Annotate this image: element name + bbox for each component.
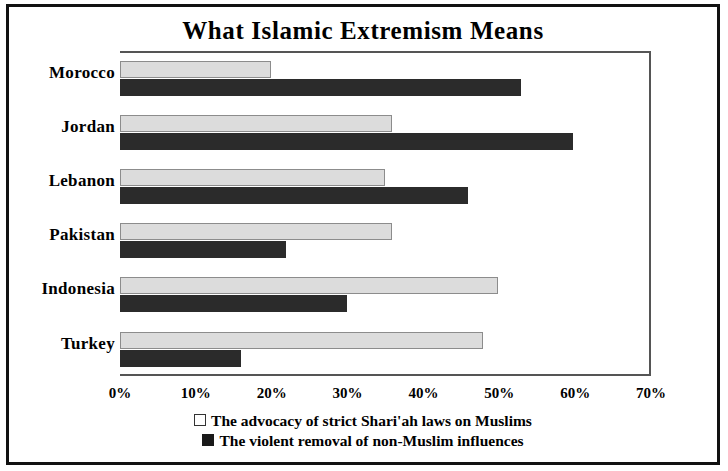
category-label: Jordan <box>10 117 115 137</box>
x-tick-label: 70% <box>636 385 666 402</box>
category-axis-labels: Morocco Jordan Lebanon Pakistan Indonesi… <box>9 51 115 376</box>
category-label-slot: Pakistan <box>9 213 115 267</box>
x-tick-label: 40% <box>408 385 438 402</box>
bar-group <box>120 53 649 107</box>
bar-advocacy <box>120 223 392 240</box>
bar-violent <box>120 133 573 150</box>
chart-legend: The advocacy of strict Shari'ah laws on … <box>9 411 717 451</box>
x-tick-label: 10% <box>181 385 211 402</box>
category-label: Lebanon <box>10 171 115 191</box>
x-tick-label: 60% <box>560 385 590 402</box>
legend-swatch-light-icon <box>194 414 206 426</box>
legend-label: The advocacy of strict Shari'ah laws on … <box>211 412 532 429</box>
bar-violent <box>120 295 347 312</box>
category-label: Pakistan <box>10 225 115 245</box>
bar-violent <box>120 187 468 204</box>
legend-label: The violent removal of non-Muslim influe… <box>219 432 523 449</box>
category-label-slot: Jordan <box>9 105 115 159</box>
bar-group <box>120 324 649 378</box>
bar-advocacy <box>120 332 483 349</box>
bar-advocacy <box>120 277 498 294</box>
bar-group <box>120 161 649 215</box>
category-label-slot: Lebanon <box>9 159 115 213</box>
bar-violent <box>120 241 286 258</box>
bar-advocacy <box>120 115 392 132</box>
category-label-slot: Morocco <box>9 51 115 105</box>
category-label-slot: Turkey <box>9 322 115 376</box>
bar-group <box>120 269 649 323</box>
chart-frame: What Islamic Extremism Means Morocco Jor… <box>6 4 720 465</box>
bar-group <box>120 215 649 269</box>
bar-rows <box>120 53 649 374</box>
bar-violent <box>120 79 521 96</box>
bar-advocacy <box>120 169 385 186</box>
legend-swatch-dark-icon <box>202 434 214 446</box>
x-tick-label: 20% <box>257 385 287 402</box>
category-label: Indonesia <box>10 279 115 299</box>
x-tick-label: 30% <box>333 385 363 402</box>
bar-violent <box>120 350 241 367</box>
x-tick-label: 50% <box>484 385 514 402</box>
chart-title: What Islamic Extremism Means <box>9 17 717 45</box>
bar-advocacy <box>120 61 271 78</box>
category-label: Turkey <box>10 334 115 354</box>
legend-item-violent: The violent removal of non-Muslim influe… <box>9 431 717 451</box>
x-tick-label: 0% <box>109 385 132 402</box>
category-label: Morocco <box>10 63 115 83</box>
plot-area <box>120 51 651 376</box>
category-label-slot: Indonesia <box>9 267 115 321</box>
bar-group <box>120 107 649 161</box>
legend-item-advocacy: The advocacy of strict Shari'ah laws on … <box>9 411 717 431</box>
x-axis: 0% 10% 20% 30% 40% 50% 60% 70% <box>120 379 651 405</box>
